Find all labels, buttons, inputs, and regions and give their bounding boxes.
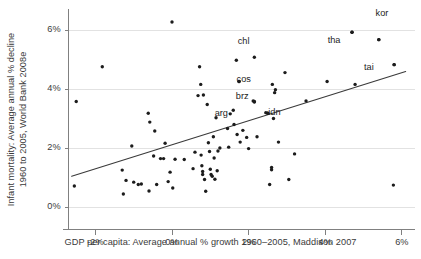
point-label-cos: cos xyxy=(237,74,251,84)
gridlines xyxy=(69,31,416,208)
x-axis-title: GDP per capita: Average annual % growth … xyxy=(0,237,421,249)
point-label-idn: idn xyxy=(268,107,280,117)
point-label-arg: arg xyxy=(215,108,228,118)
plot-canvas xyxy=(0,0,421,259)
trendline xyxy=(72,71,406,176)
y-axis-title: Infant mortality: Average annual % decli… xyxy=(6,15,29,225)
y-axis-title-line-1: Infant mortality: Average annual % decli… xyxy=(6,33,16,207)
scatter-plot-figure: 0%2%4%6% -2%0%2%4%6% korchlthataicosbrza… xyxy=(0,0,421,259)
point-label-tai: tai xyxy=(364,62,374,72)
y-tick-label-2: 4% xyxy=(31,83,61,93)
y-axis-title-line-2: 1960 to 2005, World Bank 2008e xyxy=(17,52,27,188)
data-points xyxy=(73,20,396,195)
point-label-kor: kor xyxy=(376,8,389,18)
point-label-tha: tha xyxy=(328,35,341,45)
axis-ticks xyxy=(65,31,402,235)
point-label-brz: brz xyxy=(236,91,249,101)
point-label-chl: chl xyxy=(238,36,250,46)
y-tick-label-3: 6% xyxy=(31,24,61,34)
y-tick-label-0: 0% xyxy=(31,201,61,211)
y-tick-label-1: 2% xyxy=(31,142,61,152)
